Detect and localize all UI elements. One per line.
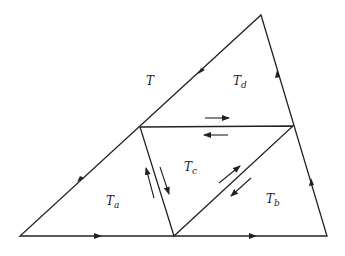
label-t: T [146,74,154,88]
diagram: T Td Tc Ta Tb [0,0,345,256]
arrow-ab-left-icon [94,233,102,239]
arrow-down-icon [160,167,169,194]
inner-triangle-tc [140,126,293,236]
label-ta: Ta [106,194,119,210]
label-tb: Tb [266,192,280,208]
label-tc: Tc [184,160,197,176]
arrow-up-right-icon [219,166,240,183]
orientation-arrows [146,118,251,198]
arrow-up-icon [146,168,154,198]
triangle-subdivision [0,0,345,256]
arrow-ab-right-icon [249,233,257,239]
edge-arrowheads [77,68,314,239]
label-td: Td [233,74,247,90]
